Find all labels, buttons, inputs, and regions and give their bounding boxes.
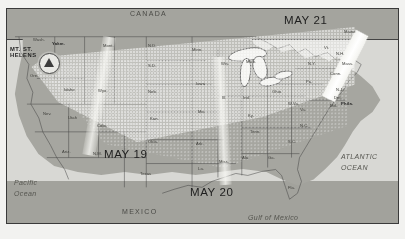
state-label-alabama: Ala. xyxy=(242,156,249,160)
state-label-georgia: Ga. xyxy=(268,156,275,160)
state-label-louisiana: La. xyxy=(198,167,204,171)
ash-cloud-map-figure: MAY 19MAY 20MAY 21CANADAMEXICOPacific Oc… xyxy=(0,0,405,239)
state-label-pennsylvania: Pa. xyxy=(306,80,312,84)
state-label-south-carolina: S.C. xyxy=(288,140,296,144)
state-label-missouri: Mo. xyxy=(198,110,205,114)
state-label-wisconsin: Wis. xyxy=(221,62,229,66)
date-label-may-19: MAY 19 xyxy=(104,148,147,160)
volcano-triangle-icon xyxy=(44,58,54,67)
state-label-wyoming: Wyo. xyxy=(98,89,108,93)
state-label-north-dakota: N.D. xyxy=(148,44,157,48)
state-label-minnesota: Minn. xyxy=(192,48,203,52)
city-label-yakima: Yakm. xyxy=(52,42,65,47)
country-label-mexico: MEXICO xyxy=(122,208,157,216)
state-label-florida: Fla. xyxy=(288,186,295,190)
state-label-colorado: Colo. xyxy=(97,124,107,128)
state-label-oregon: Ore. xyxy=(30,74,38,78)
date-label-may-20: MAY 20 xyxy=(190,186,233,198)
state-label-idaho: Idaho xyxy=(64,88,75,92)
state-label-michigan: Mich. xyxy=(246,60,256,64)
state-label-utah: Utah xyxy=(68,116,77,120)
state-label-kentucky: Ky. xyxy=(248,114,254,118)
state-label-connecticut: Conn. xyxy=(330,72,341,76)
ocean-label-atlantic-ocean: ATLANTIC OCEAN xyxy=(341,152,378,173)
state-label-massachusetts: Mass. xyxy=(342,62,353,66)
state-label-new-hampshire: N.H. xyxy=(336,52,345,56)
state-label-texas: Texas xyxy=(140,172,151,176)
state-label-new-york: N.Y. xyxy=(308,62,316,66)
country-label-canada: CANADA xyxy=(130,10,167,18)
state-label-montana: Mont. xyxy=(103,44,114,48)
ocean-label-pacific-ocean: Pacific Ocean xyxy=(14,178,37,199)
state-label-oklahoma: Okla. xyxy=(148,140,158,144)
volcano-name-label: MT. ST. HELENS xyxy=(10,46,37,59)
state-label-maine: Maine xyxy=(344,30,356,34)
state-label-north-carolina: N.C. xyxy=(300,124,309,128)
state-label-arkansas: Ark. xyxy=(196,142,204,146)
state-label-nevada: Nev. xyxy=(43,112,52,116)
state-label-new-mexico: N.M. xyxy=(93,152,102,156)
state-label-vermont: Vt. xyxy=(324,46,329,50)
state-label-tennessee: Tenn. xyxy=(250,130,261,134)
state-label-nebraska: Neb. xyxy=(148,90,157,94)
state-label-arizona: Ariz. xyxy=(62,150,71,154)
state-label-illinois: Ill. xyxy=(222,96,227,100)
state-label-new-jersey: N.J. xyxy=(336,88,344,92)
ocean-label-gulf-of-mexico: Gulf of Mexico xyxy=(248,213,298,224)
state-label-virginia: Va. xyxy=(300,108,306,112)
state-label-mississippi: Miss. xyxy=(219,160,229,164)
state-label-iowa: Iowa xyxy=(196,82,205,86)
state-label-delaware: Del. xyxy=(334,96,342,100)
state-label-kansas: Kan. xyxy=(150,117,159,121)
date-label-may-21: MAY 21 xyxy=(284,14,327,26)
mount-st-helens-marker xyxy=(39,53,58,72)
state-label-indiana: Ind. xyxy=(243,96,250,100)
state-label-south-dakota: S.D. xyxy=(148,64,156,68)
state-label-washington: Wash. xyxy=(33,38,45,42)
state-label-maryland: Md. xyxy=(330,104,337,108)
state-label-ohio: Ohio xyxy=(272,90,281,94)
state-label-west-virginia: W.Va. xyxy=(288,102,299,106)
city-label-philadelphia: Phila. xyxy=(341,102,353,107)
